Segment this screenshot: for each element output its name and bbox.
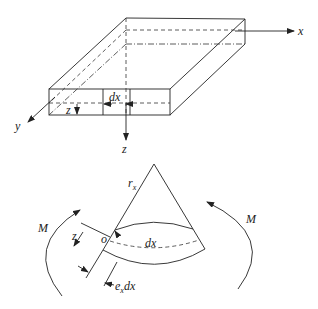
origin-arrow (115, 231, 117, 234)
dimension-line-left (86, 250, 103, 278)
element-top-arc (115, 222, 193, 230)
sector-right-side (154, 164, 205, 249)
plate-top-edge-right (170, 19, 245, 89)
strain-label: exdx (115, 279, 136, 295)
moment-left-label: M (37, 221, 49, 235)
moment-left-arc (46, 210, 80, 296)
plate-top-edge-left (49, 18, 126, 89)
plate-figure: x y z dx z (14, 18, 304, 156)
z-offset-label-top: z (65, 103, 71, 117)
bent-element-figure: dx rx o z exdx M M (37, 164, 257, 296)
dx-label-bottom: dx (145, 236, 157, 250)
diagram-canvas: x y z dx z dx rx o z exd (0, 0, 318, 309)
radius-label: rx (128, 176, 137, 192)
z-offset-label-bottom: z (71, 229, 77, 243)
hidden-bottom-left (49, 44, 126, 115)
dimension-arrow-left (78, 266, 88, 272)
dx-label-top: dx (109, 90, 121, 104)
moment-right-label: M (245, 212, 257, 226)
z-offset-bracket-top (81, 223, 110, 237)
plate-bending-diagram: x y z dx z dx rx o z exd (0, 0, 318, 309)
x-axis-label: x (297, 24, 304, 38)
element-bottom-arc (103, 249, 205, 264)
plate-right-edge-bottom (170, 44, 245, 115)
z-axis-label: z (121, 142, 127, 156)
y-axis-arrow (28, 97, 55, 122)
plate-top-edge-back (126, 18, 245, 19)
strain-arrow (105, 283, 114, 285)
y-axis-label: y (14, 119, 21, 133)
